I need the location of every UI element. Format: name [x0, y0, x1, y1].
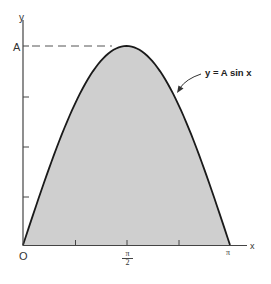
half-pi-denominator: 2	[122, 259, 133, 267]
origin-label: O	[19, 251, 28, 261]
shaded-area	[23, 46, 230, 245]
amplitude-label: A	[13, 42, 20, 52]
y-axis-label: y	[19, 13, 24, 23]
x-axis-label: x	[250, 241, 255, 251]
annotation-arrow	[180, 74, 201, 88]
arrowhead-icon	[177, 86, 184, 94]
pi-tick-label: π	[226, 248, 230, 258]
half-pi-tick-label: π 2	[122, 250, 133, 267]
equation-label: y = A sin x	[205, 68, 252, 78]
sine-area-chart	[0, 0, 271, 284]
